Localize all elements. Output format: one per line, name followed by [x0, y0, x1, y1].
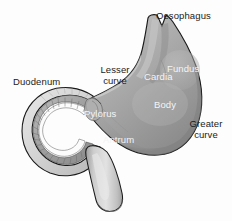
label-antrum: Antrum: [103, 134, 134, 145]
label-greater-curve: Greater curve: [183, 118, 229, 140]
duodenum-lumen: [39, 103, 88, 157]
label-pylorus: Pylorus: [84, 108, 116, 119]
label-duodenum: Duodenum: [13, 76, 60, 87]
label-cardia: Cardia: [144, 71, 173, 82]
anatomy-diagram: Oesophagus Lesser curve Duodenum Greater…: [0, 0, 232, 221]
label-lesser-curve: Lesser curve: [93, 64, 137, 86]
label-body: Body: [154, 99, 176, 110]
label-oesophagus: Oesophagus: [156, 10, 211, 21]
descending-duodenum-tube: [86, 146, 123, 212]
